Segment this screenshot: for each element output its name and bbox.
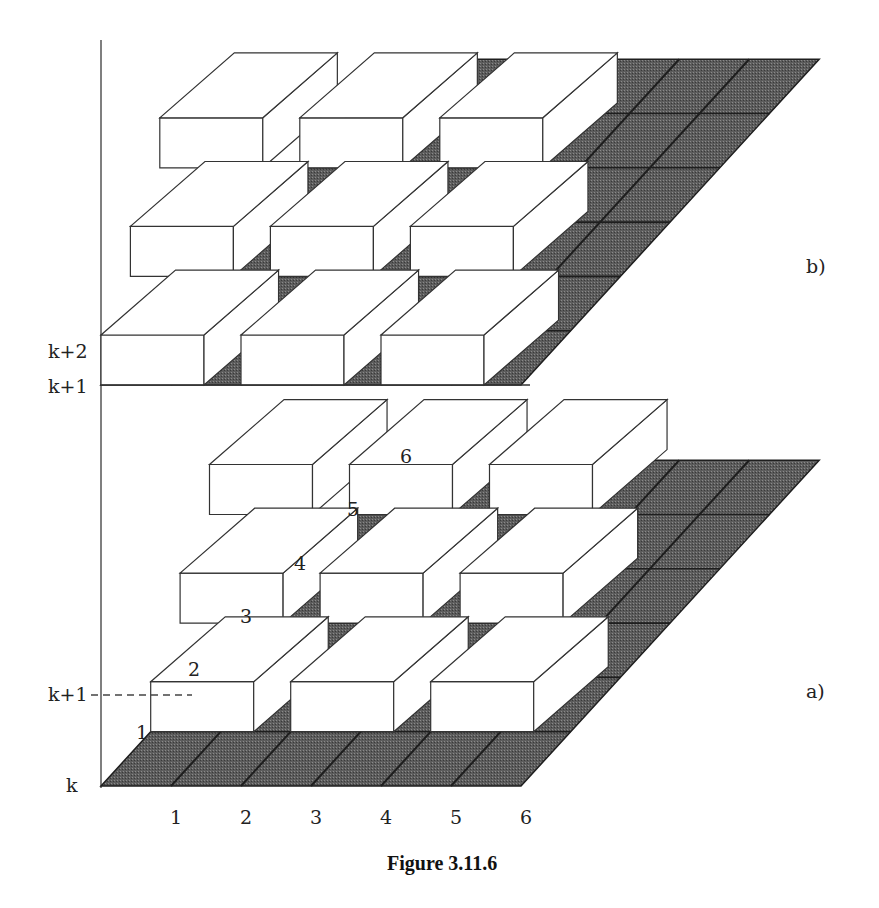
panel-b-label: b) bbox=[806, 255, 826, 277]
row-label-6: 6 bbox=[400, 445, 412, 467]
row-label-3: 3 bbox=[240, 605, 252, 627]
panel-b-grid bbox=[101, 53, 819, 385]
panel-a-ylabel-k: k bbox=[66, 774, 78, 796]
figure-caption: Figure 3.11.6 bbox=[387, 852, 497, 875]
row-label-1: 1 bbox=[136, 721, 148, 743]
row-label-5: 5 bbox=[347, 498, 359, 520]
x-label-6: 6 bbox=[520, 806, 532, 828]
panel-b-ylabel-k-plus-2: k+2 bbox=[48, 340, 88, 362]
x-label-4: 4 bbox=[380, 806, 392, 828]
panel-a-grid bbox=[101, 400, 819, 786]
panel-b-ylabel-k-plus-1: k+1 bbox=[48, 375, 88, 397]
figure-3-11-6: k+2 k+1 b) k+1 k a) 1 2 3 4 5 6 1 2 3 4 … bbox=[0, 0, 879, 908]
x-label-2: 2 bbox=[240, 806, 252, 828]
row-label-4: 4 bbox=[294, 552, 306, 574]
x-label-5: 5 bbox=[450, 806, 462, 828]
panel-a-x-labels: 1 2 3 4 5 6 bbox=[170, 806, 532, 828]
panel-a-ylabel-k-plus-1: k+1 bbox=[48, 683, 88, 705]
row-label-2: 2 bbox=[188, 658, 200, 680]
x-label-3: 3 bbox=[310, 806, 322, 828]
x-label-1: 1 bbox=[170, 806, 182, 828]
panel-a-label: a) bbox=[806, 680, 825, 702]
